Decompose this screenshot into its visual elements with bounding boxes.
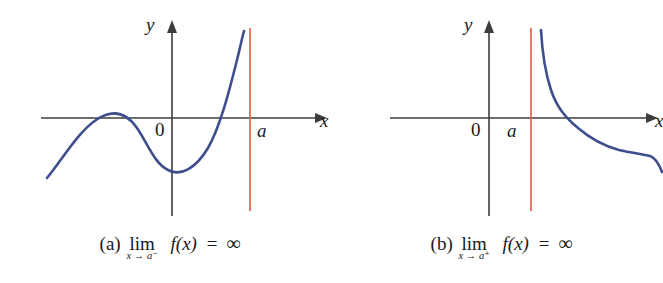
- limit-operator-a: lim x → a⁻: [129, 233, 154, 255]
- plot-b: [340, 0, 663, 230]
- caption-part-label-a: (a): [100, 233, 121, 254]
- caption-limit-value-b: ∞: [558, 232, 572, 254]
- plot-a: [0, 0, 340, 230]
- caption-limit-value-a: ∞: [226, 232, 240, 254]
- limit-operator-b: lim x → a⁺: [461, 233, 486, 255]
- lim-subscript-b: x → a⁺: [459, 249, 490, 261]
- x-axis-b: [390, 113, 658, 123]
- caption-b: (b) lim x → a⁺ f(x) = ∞: [340, 232, 663, 255]
- x-axis-a: [41, 113, 327, 123]
- x-axis-label-b: x: [655, 110, 663, 132]
- caption-function-a: f(x): [171, 233, 197, 254]
- panel-a: y x 0 a (a) lim x → a⁻ f(x) = ∞: [0, 0, 340, 283]
- caption-equals-b: =: [539, 233, 550, 254]
- figure-container: y x 0 a (a) lim x → a⁻ f(x) = ∞: [0, 0, 663, 283]
- x-axis-label-a: x: [320, 110, 328, 132]
- origin-label-a: 0: [155, 119, 165, 141]
- y-axis-label-a: y: [146, 14, 154, 36]
- lim-subscript-a: x → a⁻: [127, 249, 158, 261]
- curve-a: [47, 31, 244, 178]
- caption-function-b: f(x): [503, 233, 529, 254]
- curve-b: [541, 30, 662, 172]
- caption-equals-a: =: [207, 233, 218, 254]
- origin-label-b: 0: [471, 119, 481, 141]
- asymptote-label-b: a: [507, 120, 517, 142]
- caption-a: (a) lim x → a⁻ f(x) = ∞: [0, 232, 340, 255]
- y-axis-label-b: y: [464, 14, 472, 36]
- asymptote-label-a: a: [257, 120, 267, 142]
- panel-b: y x 0 a (b) lim x → a⁺ f(x) = ∞: [340, 0, 663, 283]
- caption-part-label-b: (b): [431, 233, 453, 254]
